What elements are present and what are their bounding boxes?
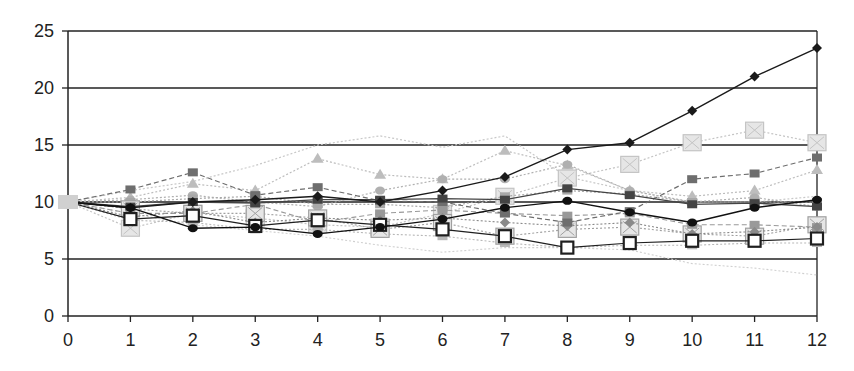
x-tick-label: 3 <box>250 330 260 350</box>
square-marker-icon <box>687 200 697 208</box>
circle-marker-icon <box>562 160 572 168</box>
chart-canvas: 0510152025 0123456789101112 <box>0 0 854 371</box>
x-tick-label: 11 <box>745 330 764 350</box>
triangle-marker-icon <box>499 145 511 155</box>
circle-marker-icon <box>250 223 260 231</box>
opensquare-marker-icon <box>312 214 324 226</box>
triangle-marker-icon <box>187 178 199 188</box>
diamond-marker-icon <box>500 218 510 228</box>
line-series-1 <box>68 43 822 213</box>
square-marker-icon <box>438 195 448 203</box>
y-tick-label: 5 <box>44 249 54 269</box>
circle-marker-icon <box>625 208 635 216</box>
y-tick-label: 10 <box>34 192 54 212</box>
square-marker-icon <box>812 154 822 162</box>
x-tick-label: 12 <box>807 330 827 350</box>
opensquare-marker-icon <box>187 210 199 222</box>
x-tick-label: 10 <box>682 330 702 350</box>
data-series <box>58 43 826 275</box>
x-tick-label: 0 <box>63 330 73 350</box>
circle-marker-icon <box>687 219 697 227</box>
circle-marker-icon <box>375 223 385 231</box>
xsquare-marker-icon <box>621 156 639 172</box>
y-tick-label: 20 <box>34 78 54 98</box>
square-marker-icon <box>188 168 198 176</box>
square-marker-icon <box>125 185 135 193</box>
circle-marker-icon <box>125 204 135 212</box>
circle-marker-icon <box>562 197 572 205</box>
square-marker-icon <box>500 196 510 204</box>
opensquare-marker-icon <box>686 235 698 247</box>
x-axis-tick-labels: 0123456789101112 <box>63 330 827 350</box>
square-marker-icon <box>313 183 323 191</box>
diamond-marker-icon <box>438 186 448 196</box>
line-series-5 <box>68 145 823 202</box>
diamond-marker-icon <box>562 145 572 155</box>
x-tick-label: 4 <box>313 330 323 350</box>
x-tick-label: 5 <box>375 330 385 350</box>
square-marker-icon <box>562 184 572 192</box>
square-marker-icon <box>438 206 448 214</box>
diamond-marker-icon <box>625 138 635 148</box>
opensquare-marker-icon <box>811 232 823 244</box>
opensquare-marker-icon <box>499 230 511 242</box>
triangle-marker-icon <box>811 164 823 174</box>
square-marker-icon <box>687 175 697 183</box>
triangle-marker-icon <box>312 153 324 163</box>
y-axis-tick-labels: 0510152025 <box>34 21 54 326</box>
opensquare-marker-icon <box>624 237 636 249</box>
circle-marker-icon <box>438 175 448 183</box>
xsquare-marker-icon <box>808 135 826 151</box>
opensquare-marker-icon <box>124 213 136 225</box>
circle-marker-icon <box>500 204 510 212</box>
x-tick-label: 9 <box>625 330 635 350</box>
circle-marker-icon <box>313 230 323 238</box>
opensquare-marker-icon <box>749 235 761 247</box>
diamond-marker-icon <box>812 43 822 53</box>
y-tick-label: 0 <box>44 306 54 326</box>
y-tick-label: 15 <box>34 135 54 155</box>
opensquare-marker-icon <box>437 223 449 235</box>
opensquare-marker-icon <box>561 242 573 254</box>
circle-marker-icon <box>812 196 822 204</box>
x-tick-label: 8 <box>562 330 572 350</box>
x-tick-label: 2 <box>188 330 198 350</box>
circle-marker-icon <box>188 224 198 232</box>
line-chart: 0510152025 0123456789101112 <box>0 0 854 371</box>
x-tick-label: 1 <box>125 330 135 350</box>
xsquare-marker-icon <box>746 122 764 138</box>
circle-marker-icon <box>438 215 448 223</box>
square-marker-icon <box>562 219 572 227</box>
xsquare-marker-icon <box>558 170 576 186</box>
square-marker-icon <box>812 203 822 211</box>
xsquare-marker-icon <box>683 135 701 151</box>
start-point-marker-icon <box>58 195 78 209</box>
circle-marker-icon <box>375 187 385 195</box>
diamond-marker-icon <box>687 106 697 116</box>
square-marker-icon <box>750 170 760 178</box>
square-marker-icon <box>625 191 635 199</box>
x-tick-label: 6 <box>437 330 447 350</box>
triangle-marker-icon <box>374 169 386 179</box>
square-marker-icon <box>562 212 572 220</box>
x-tick-label: 7 <box>500 330 510 350</box>
diamond-marker-icon <box>750 72 760 82</box>
circle-marker-icon <box>750 204 760 212</box>
y-tick-label: 25 <box>34 21 54 41</box>
